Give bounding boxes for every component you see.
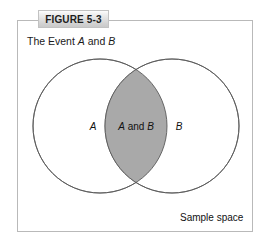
intersection-label-a: A <box>118 121 125 132</box>
sample-space-label: Sample space <box>180 212 243 224</box>
intersection-label-and: and <box>125 121 147 132</box>
caption-prefix-text: The Event <box>27 35 78 47</box>
intersection-label-b: B <box>147 121 154 132</box>
intersection-label: A and B <box>118 121 154 133</box>
set-b-label: B <box>176 121 183 133</box>
caption-conjunction-text: and <box>85 35 108 47</box>
figure-container: FIGURE 5-3 The Event A and B A B A and B… <box>0 0 272 246</box>
figure-number-tab: FIGURE 5-3 <box>38 10 109 28</box>
set-a-label: A <box>90 121 97 133</box>
caption-event-b-text: B <box>108 35 115 47</box>
figure-number-label: FIGURE 5-3 <box>45 14 102 25</box>
caption-event-a-text: A <box>78 35 85 47</box>
figure-caption: The Event A and B <box>27 35 115 48</box>
